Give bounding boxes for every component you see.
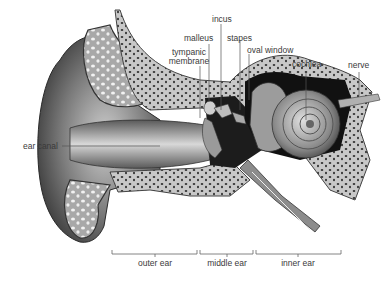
label-nerve: nerve bbox=[348, 61, 369, 70]
label-inner-ear: inner ear bbox=[268, 259, 328, 268]
label-incus: incus bbox=[212, 15, 232, 24]
label-outer-ear: outer ear bbox=[125, 259, 185, 268]
eustachian-tube bbox=[240, 160, 320, 232]
label-tympanic-membrane-2: membrane bbox=[164, 57, 214, 66]
label-middle-ear: middle ear bbox=[196, 259, 258, 268]
label-ear-canal: ear canal bbox=[23, 142, 58, 151]
label-malleus: malleus bbox=[184, 34, 213, 43]
ear-canal-shape bbox=[70, 120, 210, 168]
label-cochlea: cochlea bbox=[292, 60, 321, 69]
label-oval-window: oval window bbox=[247, 46, 293, 55]
label-stapes: stapes bbox=[227, 34, 252, 43]
region-brackets bbox=[112, 250, 341, 257]
